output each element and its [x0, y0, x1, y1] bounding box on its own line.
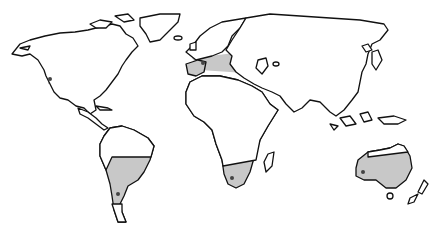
marker-europe [201, 61, 205, 65]
new-zealand [418, 180, 428, 194]
world-map [0, 0, 441, 234]
marker-north-america [48, 77, 52, 81]
marker-australia [361, 170, 365, 174]
continents [12, 14, 428, 222]
marker-southern-africa [230, 176, 234, 180]
madagascar [264, 152, 274, 172]
japan [372, 50, 382, 70]
marker-south-america [116, 192, 120, 196]
north-america [12, 24, 138, 114]
